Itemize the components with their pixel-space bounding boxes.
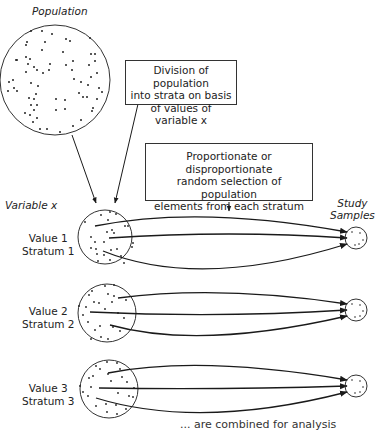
stratum-3-label: Value 3 Stratum 3 xyxy=(22,382,75,408)
population-label: Population xyxy=(32,5,88,18)
division-box-line-3: of values of variable x xyxy=(130,102,232,127)
study-samples-line-1: Study xyxy=(330,197,375,209)
sample-2-circle xyxy=(345,299,367,321)
stratum-2-label: Value 2 Stratum 2 xyxy=(22,305,75,331)
stratum-1-value: Value 1 xyxy=(22,232,75,245)
stratum-2-name: Stratum 2 xyxy=(22,318,75,331)
division-box-line-1: Division of population xyxy=(130,64,232,89)
division-box-line-2: into strata on basis xyxy=(130,89,232,102)
stratum-3-value: Value 3 xyxy=(22,382,75,395)
population-circle xyxy=(0,25,110,135)
stratum-3-name: Stratum 3 xyxy=(22,395,75,408)
sample-3-circle xyxy=(345,375,367,397)
variable-x-label: Variable x xyxy=(5,199,57,212)
selection-box-line-1: Proportionate or disproportionate xyxy=(150,150,308,175)
study-samples-line-2: Samples xyxy=(330,209,375,221)
selection-box-line-3: elements from each stratum xyxy=(150,200,308,213)
stratum-1-name: Stratum 1 xyxy=(22,245,75,258)
sample-1-circle xyxy=(345,227,367,249)
division-box: Division of population into strata on ba… xyxy=(125,60,237,105)
stratum-1-label: Value 1 Stratum 1 xyxy=(22,232,75,258)
study-samples-label: Study Samples xyxy=(330,197,375,221)
selection-box: Proportionate or disproportionate random… xyxy=(145,143,313,201)
footer-caption-clipped: ... are combined for analysis xyxy=(180,418,336,431)
selection-box-line-2: random selection of population xyxy=(150,175,308,200)
stratum-2-value: Value 2 xyxy=(22,305,75,318)
